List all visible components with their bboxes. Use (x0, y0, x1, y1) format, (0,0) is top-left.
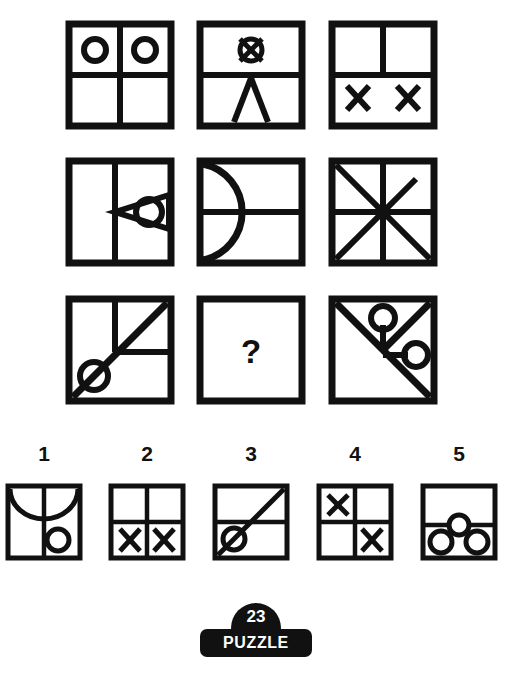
triangle-peak-icon (234, 78, 268, 122)
puzzle-label: PUZZLE (200, 632, 312, 654)
circle-bottom-left-icon (430, 531, 452, 553)
answer-options: 1 2 (0, 443, 512, 583)
matrix-cell-r1c3 (328, 20, 438, 130)
puzzle-number: 23 (231, 606, 281, 628)
option-5[interactable]: 5 (415, 443, 503, 561)
circle-bottom-right-icon (466, 531, 488, 553)
option-4-figure[interactable] (316, 483, 394, 561)
option-2-figure[interactable] (108, 483, 186, 561)
option-1-figure[interactable] (5, 483, 83, 561)
matrix-grid: ? (0, 0, 512, 420)
puzzle-badge: 23 PUZZLE (0, 603, 512, 667)
option-2-number: 2 (103, 443, 191, 465)
circle-top-right-icon (134, 39, 156, 61)
circle-with-x-icon (240, 39, 262, 61)
x-bottom-right-icon (362, 529, 382, 551)
diagonal-bl-tr-icon (336, 179, 416, 259)
matrix-cell-r3c2-missing[interactable]: ? (196, 295, 306, 405)
x-top-left-icon (328, 495, 348, 515)
option-3[interactable]: 3 (207, 443, 295, 561)
matrix-cell-r1c1 (65, 20, 175, 130)
matrix-cell-r3c1 (65, 295, 175, 405)
option-1[interactable]: 1 (0, 443, 88, 561)
option-3-figure[interactable] (212, 483, 290, 561)
question-mark: ? (241, 333, 261, 370)
x-bottom-right-icon (154, 529, 174, 551)
matrix-cell-r2c3 (328, 157, 438, 267)
circle-top-left-icon (84, 39, 106, 61)
puzzle-page: ? 1 (0, 0, 512, 679)
option-4[interactable]: 4 (311, 443, 399, 561)
matrix-cell-r2c1 (65, 157, 175, 267)
option-5-figure[interactable] (420, 483, 498, 561)
x-bottom-left-icon (347, 86, 369, 110)
x-bottom-left-icon (120, 529, 140, 551)
matrix-cell-r2c2 (196, 157, 306, 267)
option-5-number: 5 (415, 443, 503, 465)
x-bottom-right-icon (397, 86, 419, 110)
matrix-cell-r1c2 (196, 20, 306, 130)
matrix-cell-r3c3 (328, 295, 438, 405)
option-4-number: 4 (311, 443, 399, 465)
circle-lower-right-icon (47, 529, 69, 551)
option-1-number: 1 (0, 443, 88, 465)
circle-center-icon (449, 515, 469, 535)
option-3-number: 3 (207, 443, 295, 465)
badge-wrap: 23 PUZZLE (200, 603, 312, 663)
option-2[interactable]: 2 (103, 443, 191, 561)
